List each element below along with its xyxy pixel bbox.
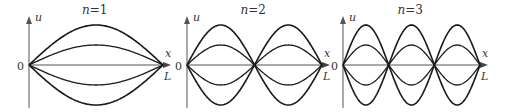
mode-curve	[29, 45, 163, 65]
x-axis-label: x	[482, 47, 489, 60]
y-axis-arrow-icon	[340, 16, 346, 24]
x-axis-label: x	[324, 47, 331, 60]
x-axis-arrow-icon	[480, 62, 488, 68]
origin-label: 0	[17, 60, 24, 73]
end-label-L: L	[163, 70, 171, 83]
panel-title: n=2	[241, 3, 266, 17]
end-label-L: L	[322, 70, 330, 83]
y-axis-label: u	[35, 11, 42, 24]
origin-label: 0	[175, 60, 182, 73]
figure-svg: uxL0n=1uxL0n=2uxL0n=3	[0, 0, 508, 112]
y-axis-label: u	[193, 11, 200, 24]
mode-curve	[29, 65, 163, 85]
panel-title: n=1	[82, 3, 107, 17]
y-axis-label: u	[349, 11, 356, 24]
panel-title: n=3	[398, 3, 423, 17]
x-axis-label: x	[165, 47, 172, 60]
x-axis-arrow-icon	[163, 62, 171, 68]
y-axis-arrow-icon	[184, 16, 190, 24]
x-axis-arrow-icon	[322, 62, 330, 68]
end-label-L: L	[480, 70, 488, 83]
standing-wave-figure: uxL0n=1uxL0n=2uxL0n=3	[0, 0, 508, 112]
y-axis-arrow-icon	[26, 16, 32, 24]
origin-label: 0	[331, 60, 338, 73]
